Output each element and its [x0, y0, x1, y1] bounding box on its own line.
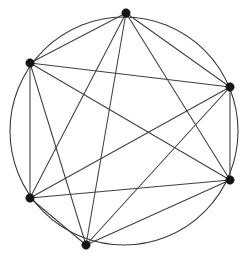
graph-vertex-upper-right — [226, 83, 234, 91]
circle-boundary — [10, 17, 238, 245]
graph-edge-v2-v3 — [30, 63, 230, 87]
graph-edge-v1-v5 — [126, 13, 230, 180]
graph-vertex-lower-right — [226, 176, 234, 184]
graph-vertex-top — [122, 9, 130, 17]
graph-edge-v4-v6 — [30, 198, 86, 245]
graph-vertex-bottom — [82, 241, 90, 249]
graph-edge-v4-v5 — [30, 180, 230, 198]
graph-edge-v3-v6 — [86, 87, 230, 245]
edge-layer — [30, 13, 230, 245]
graph-vertex-lower-left — [26, 194, 34, 202]
graph-edge-v3-v4 — [30, 87, 230, 198]
figure-root — [0, 0, 249, 264]
graph-edge-v1-v2 — [30, 13, 126, 63]
graph-edge-v1-v6 — [86, 13, 126, 245]
graph-edge-v5-v6 — [86, 180, 230, 245]
graph-edge-v1-v4 — [30, 13, 126, 198]
graph-edge-v2-v5 — [30, 63, 230, 180]
graph-vertex-upper-left — [26, 59, 34, 67]
complete-graph-diagram — [0, 0, 249, 264]
